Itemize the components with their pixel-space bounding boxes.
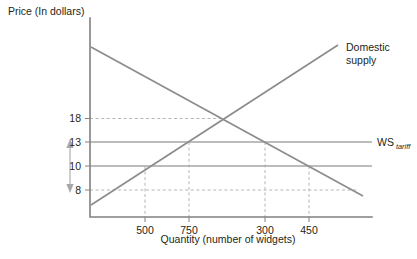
- y-tick-label-10: 10: [69, 160, 81, 172]
- x-tick-label-300: 300: [256, 224, 274, 236]
- series-label-ws-tariff: WS: [377, 136, 394, 148]
- series-label-ws-subscript: tariff: [396, 142, 411, 151]
- x-tick-label-750: 750: [180, 224, 198, 236]
- economics-supply-demand-chart: Price (In dollars) Quantity (number of w…: [0, 0, 417, 259]
- y-tick-label-13: 13: [69, 136, 81, 148]
- series-label-domestic-supply-line2: supply: [346, 54, 377, 66]
- x-tick-label-500: 500: [136, 224, 154, 236]
- y-tick-label-18: 18: [69, 112, 81, 124]
- x-tick-label-450: 450: [300, 224, 318, 236]
- series-label-domestic-supply-line1: Domestic: [346, 41, 390, 53]
- chart-canvas: Price (In dollars) Quantity (number of w…: [0, 0, 417, 259]
- series-label-ws-main: WS: [377, 136, 394, 148]
- y-tick-label-8: 8: [75, 184, 81, 196]
- y-axis-title: Price (In dollars): [8, 5, 84, 17]
